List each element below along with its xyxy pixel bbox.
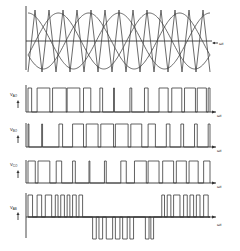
up-arrow-icon [17, 170, 20, 178]
arrow-icon [212, 182, 216, 185]
arrow-icon [212, 111, 216, 114]
arrow-icon [212, 42, 218, 44]
x-axis-label: ωt [219, 41, 224, 46]
v-co-waveform [28, 161, 210, 183]
x-axis-label: ωt [217, 222, 222, 227]
carrier-reference-panel: ωt [26, 6, 224, 72]
x-axis-label: ωt [217, 113, 222, 118]
v-ao-waveform [28, 88, 210, 112]
x-axis-label: ωt [217, 148, 222, 153]
v-ao-panel: VAO ωt [10, 85, 222, 118]
v-ab-label: VAB [10, 205, 17, 211]
v-ab-panel: VAB ωt [10, 193, 222, 239]
arrow-icon [212, 146, 216, 149]
spwm-diagram: ωt VAO ωt VBO ωt VCO [0, 0, 240, 251]
x-axis-label: ωt [217, 184, 222, 189]
arrow-icon [212, 216, 216, 219]
v-co-panel: VCO ωt [10, 160, 222, 189]
v-co-label: VCO [10, 162, 18, 168]
up-arrow-icon [17, 135, 20, 143]
v-ab-waveform [28, 195, 210, 239]
v-ao-label: VAO [10, 92, 18, 98]
v-bo-panel: VBO ωt [10, 123, 222, 153]
up-arrow-icon [17, 212, 20, 220]
v-bo-label: VBO [10, 127, 18, 133]
v-bo-waveform [28, 124, 210, 147]
up-arrow-icon [17, 100, 20, 108]
